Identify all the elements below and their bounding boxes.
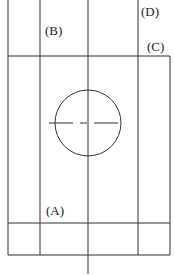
label-d: (D) [141,4,159,19]
technical-drawing: (B) (D) (C) (A) [0,0,175,275]
label-c: (C) [147,39,164,54]
label-b: (B) [45,23,62,38]
label-a: (A) [46,203,64,218]
